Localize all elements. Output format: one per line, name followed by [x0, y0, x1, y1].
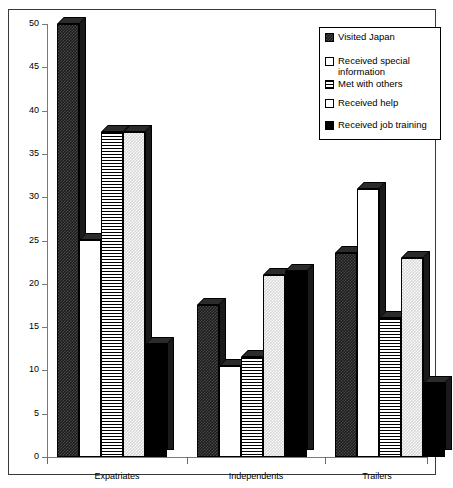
- legend-label: Received help: [338, 98, 398, 109]
- chart-legend: Visited JapanReceived special informatio…: [319, 27, 441, 140]
- legend-item[interactable]: Received special information: [325, 56, 410, 77]
- legend-item[interactable]: Met with others: [325, 79, 402, 90]
- category-separator: [47, 457, 48, 464]
- bar: [145, 344, 167, 457]
- legend-swatch-icon: [325, 121, 334, 130]
- legend-item[interactable]: Received job training: [325, 120, 427, 131]
- y-tick-label: 20: [13, 279, 39, 288]
- category-separator: [427, 457, 428, 464]
- y-tick-label: 30: [13, 192, 39, 201]
- bar-front-face: [219, 366, 241, 457]
- bar-front-face: [79, 240, 101, 457]
- bar-side-face: [307, 264, 314, 450]
- bar-front-face: [263, 275, 285, 457]
- bar-side-face: [167, 337, 174, 450]
- x-axis-line: [47, 457, 428, 458]
- bar: [335, 253, 357, 457]
- bar: [423, 383, 445, 457]
- bar-front-face: [241, 357, 263, 457]
- bar-front-face: [197, 305, 219, 457]
- y-tick-label: 25: [13, 236, 39, 245]
- legend-swatch-icon: [325, 33, 334, 42]
- x-axis-label: Trailers: [327, 471, 427, 481]
- bar-front-face: [145, 344, 167, 457]
- category-separator: [325, 457, 326, 464]
- bar-front-face: [285, 271, 307, 457]
- bar: [401, 258, 423, 457]
- bar-front-face: [57, 24, 79, 457]
- y-tick-label: 5: [13, 409, 39, 418]
- bar-front-face: [379, 318, 401, 457]
- y-tick-label: 10: [13, 365, 39, 374]
- y-tick-label: 35: [13, 149, 39, 158]
- bar: [379, 318, 401, 457]
- legend-item[interactable]: Visited Japan: [325, 32, 395, 43]
- bar: [241, 357, 263, 457]
- legend-swatch-icon: [325, 80, 334, 89]
- bar-front-face: [423, 383, 445, 457]
- bar: [79, 240, 101, 457]
- y-tick-label: 45: [13, 62, 39, 71]
- legend-swatch-icon: [325, 57, 334, 66]
- bar: [285, 271, 307, 457]
- y-tick-label: 15: [13, 322, 39, 331]
- legend-item[interactable]: Received help: [325, 98, 398, 109]
- legend-label: Visited Japan: [338, 32, 395, 43]
- legend-label: Received job training: [338, 120, 427, 131]
- bar-group: [57, 24, 175, 457]
- bar-front-face: [101, 132, 123, 457]
- legend-swatch-icon: [325, 99, 334, 108]
- bar: [101, 132, 123, 457]
- category-separator: [187, 457, 188, 464]
- bar: [123, 132, 145, 457]
- x-axis-label: Expatriates: [67, 471, 167, 481]
- bar-front-face: [123, 132, 145, 457]
- legend-label: Received special information: [338, 56, 410, 77]
- y-tick-label: 50: [13, 19, 39, 28]
- bar-front-face: [357, 189, 379, 457]
- legend-label: Met with others: [338, 79, 402, 90]
- bar: [197, 305, 219, 457]
- bar: [219, 366, 241, 457]
- chart-frame: 05101520253035404550 ExpatriatesIndepend…: [8, 9, 436, 475]
- bar: [57, 24, 79, 457]
- y-tick-label: 40: [13, 106, 39, 115]
- bar-front-face: [335, 253, 357, 457]
- bar: [357, 189, 379, 457]
- bar: [263, 275, 285, 457]
- x-axis-label: Independents: [206, 471, 306, 481]
- y-tick-label: 0: [13, 452, 39, 461]
- bar-group: [197, 24, 315, 457]
- bar-front-face: [401, 258, 423, 457]
- bar-side-face: [445, 376, 452, 450]
